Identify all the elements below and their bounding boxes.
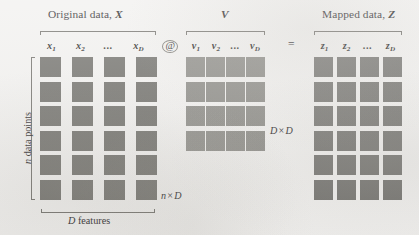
matrix-z-title-prefix: Mapped data, — [322, 8, 388, 20]
matrix-cell — [314, 106, 333, 126]
matrix-cell — [72, 106, 93, 126]
matrix-cell — [246, 82, 265, 102]
matrix-x-title: Original data, X — [48, 8, 123, 20]
matrix-cell — [226, 57, 245, 77]
matrix-cell — [186, 57, 205, 77]
matrix-x-col-header-ellipsis: ... — [97, 40, 119, 51]
matrix-cell — [314, 131, 333, 151]
col-header-sub: D — [390, 45, 395, 53]
matrix-cell — [40, 131, 61, 151]
col-header-sub: 1 — [325, 45, 329, 53]
matrix-cell — [337, 82, 356, 102]
matrix-cell — [314, 155, 333, 175]
matrix-cell — [40, 155, 61, 175]
matrix-cell — [72, 82, 93, 102]
bracket-tick-left — [314, 31, 315, 35]
matrix-cell — [246, 131, 265, 151]
matrix-cell — [136, 155, 157, 175]
matrix-z-col-header-ellipsis: ... — [357, 40, 378, 51]
matrix-cell — [360, 106, 379, 126]
matrix-cell — [136, 106, 157, 126]
col-header-sub: 1 — [52, 45, 56, 53]
matrix-cell — [383, 155, 402, 175]
matrix-cell — [104, 106, 125, 126]
bracket-bar — [186, 31, 265, 32]
matrix-cell — [360, 131, 379, 151]
matrix-z-title: Mapped data, Z — [322, 8, 395, 20]
col-header-sub: 2 — [217, 45, 221, 53]
bracket-tick-right — [154, 209, 155, 213]
matrix-v-top-bracket — [186, 31, 265, 36]
matrix-cell — [226, 82, 245, 102]
figure-canvas: Original data, X x1 x2 ... xD n data poi… — [0, 0, 419, 235]
matrix-v-col-header-d: vD — [244, 40, 266, 53]
shape-cols: D — [174, 190, 181, 201]
col-header-sub: 1 — [197, 45, 201, 53]
matrix-cell — [383, 57, 402, 77]
matrix-cell — [186, 131, 205, 151]
matrix-cell — [206, 106, 225, 126]
matrix-cell — [104, 155, 125, 175]
col-header-base: z — [321, 40, 325, 51]
col-header-sub: 2 — [347, 45, 351, 53]
matrix-x-bottom-bracket — [41, 208, 155, 213]
equals-operator: = — [288, 38, 295, 51]
matrix-cell — [337, 180, 356, 200]
matrix-x-col-axis-label: D features — [68, 215, 110, 226]
matrix-cell — [206, 82, 225, 102]
matrix-v-title: V — [221, 8, 229, 20]
col-header-base: x — [133, 40, 138, 51]
matrix-cell — [136, 57, 157, 77]
matrix-z-col-header-2: z2 — [336, 40, 357, 53]
matrix-x-grid — [40, 57, 157, 200]
matrix-x-title-symbol: X — [115, 8, 123, 20]
matrix-cell — [104, 82, 125, 102]
matrix-cell — [383, 82, 402, 102]
bracket-bar — [41, 212, 155, 213]
matrix-cell — [206, 131, 225, 151]
matrix-cell — [136, 82, 157, 102]
bracket-tick-bottom — [31, 199, 35, 200]
bracket-bar — [40, 31, 156, 32]
matrix-cell — [40, 82, 61, 102]
matrix-cell — [226, 131, 245, 151]
matrix-cell — [226, 106, 245, 126]
matrix-v-grid — [186, 57, 265, 151]
matrix-x-col-header-1: x1 — [40, 40, 63, 53]
matrix-cell — [72, 155, 93, 175]
matrix-cell — [360, 82, 379, 102]
matrix-x-top-bracket — [40, 31, 156, 36]
matrix-cell — [246, 57, 265, 77]
matrix-x-title-prefix: Original data, — [48, 8, 115, 20]
matrix-cell — [314, 57, 333, 77]
matrix-x-row-axis-label: n data points — [22, 112, 33, 164]
matrix-x-col-header-2: x2 — [69, 40, 92, 53]
matrix-cell — [186, 82, 205, 102]
matrix-v-title-symbol: V — [221, 8, 229, 20]
matmul-operator: @ — [162, 39, 178, 53]
matrix-z-top-bracket — [314, 31, 402, 36]
matrix-cell — [337, 106, 356, 126]
matrix-cell — [40, 57, 61, 77]
bracket-tick-left — [40, 31, 41, 35]
matrix-cell — [40, 106, 61, 126]
matmul-operator-glyph: @ — [162, 40, 178, 53]
matrix-v-shape-label: D×D — [270, 125, 293, 136]
matrix-cell — [314, 180, 333, 200]
matrix-cell — [337, 131, 356, 151]
matrix-v-col-header-ellipsis: ... — [225, 40, 245, 51]
matrix-z-title-symbol: Z — [388, 8, 395, 20]
matrix-cell — [72, 180, 93, 200]
matrix-cell — [72, 131, 93, 151]
col-header-base: v — [212, 40, 217, 51]
matrix-x-shape-label: n×D — [161, 190, 182, 201]
col-axis-noun: features — [75, 215, 110, 226]
bracket-tick-left — [41, 209, 42, 213]
matrix-cell — [72, 57, 93, 77]
matrix-x-col-header-d: xD — [126, 40, 151, 53]
matrix-cell — [246, 106, 265, 126]
shape-times: × — [277, 125, 285, 136]
col-header-sub: D — [255, 45, 260, 53]
matrix-z-col-header-1: z1 — [314, 40, 335, 53]
row-axis-noun: data points — [22, 112, 33, 159]
